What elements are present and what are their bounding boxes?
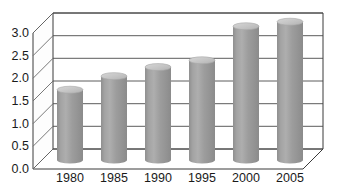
bar-body — [101, 76, 127, 163]
y-tick-label: 0.0 — [12, 162, 29, 176]
bar-body — [233, 26, 259, 163]
bar-1980 — [57, 86, 83, 163]
bar-top-cap — [277, 18, 303, 25]
bar-body — [57, 90, 83, 164]
y-tick-label: 0.5 — [12, 139, 29, 153]
bar-top-cap — [145, 64, 171, 71]
bar-body — [277, 22, 303, 164]
x-tick-label: 2005 — [276, 171, 304, 185]
x-tick-label: 1995 — [188, 171, 216, 185]
bar-2000 — [233, 23, 259, 164]
bar-2005 — [277, 18, 303, 163]
bar-body — [145, 67, 171, 163]
y-tick-label: 2.0 — [12, 71, 29, 85]
chart-canvas: 3.0 2.5 2.0 1.5 1.0 0.5 0.0 1980 1985 19… — [0, 0, 345, 186]
x-tick-label: 2000 — [232, 171, 260, 185]
y-tick-label: 1.0 — [12, 117, 29, 131]
x-tick-label: 1980 — [56, 171, 84, 185]
bar-chart: 3.0 2.5 2.0 1.5 1.0 0.5 0.0 1980 1985 19… — [0, 0, 345, 186]
bar-body — [189, 60, 215, 163]
y-tick-label: 1.5 — [12, 94, 29, 108]
bar-top-cap — [101, 73, 127, 80]
y-axis-labels: 3.0 2.5 2.0 1.5 1.0 0.5 0.0 — [12, 26, 29, 176]
x-tick-label: 1985 — [100, 171, 128, 185]
x-tick-label: 1990 — [144, 171, 172, 185]
bar-top-cap — [233, 23, 259, 30]
y-tick-label: 3.0 — [12, 26, 29, 40]
bar-top-cap — [189, 57, 215, 64]
bar-1995 — [189, 57, 215, 164]
bar-top-cap — [57, 86, 83, 93]
x-axis-labels: 1980 1985 1990 1995 2000 2005 — [56, 171, 304, 185]
y-tick-label: 2.5 — [12, 49, 29, 63]
bar-1990 — [145, 64, 171, 164]
bar-1985 — [101, 73, 127, 164]
